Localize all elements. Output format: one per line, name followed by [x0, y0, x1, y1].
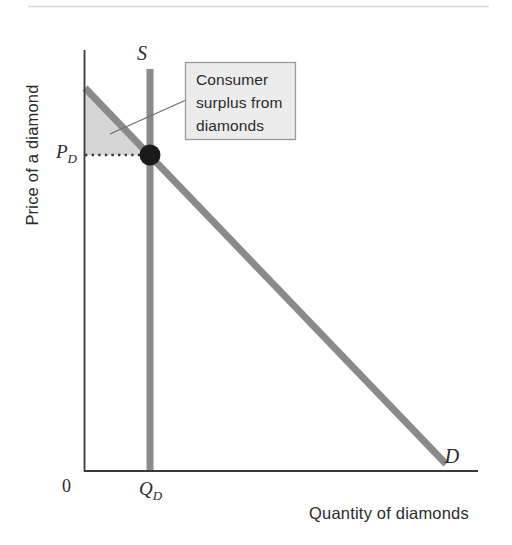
- economics-figure: Consumer surplus from diamonds S D PD QD…: [0, 0, 512, 545]
- y-axis-title: Price of a diamond: [23, 84, 41, 225]
- price-subscript: D: [67, 151, 78, 166]
- x-axis-title: Quantity of diamonds: [309, 504, 469, 522]
- quantity-subscript: D: [152, 488, 163, 503]
- callout-line-3: diamonds: [196, 117, 264, 134]
- demand-curve-label: D: [444, 445, 460, 467]
- demand-curve: [85, 88, 446, 464]
- price-axis-label: PD: [55, 141, 78, 166]
- supply-curve-label: S: [137, 42, 147, 64]
- equilibrium-point: [140, 145, 161, 166]
- price-symbol: P: [55, 141, 68, 162]
- callout-line-1: Consumer: [196, 71, 268, 88]
- quantity-axis-label: QD: [139, 478, 163, 503]
- callout-line-2: surplus from: [196, 94, 282, 111]
- quantity-symbol: Q: [139, 478, 153, 499]
- origin-label: 0: [62, 476, 71, 496]
